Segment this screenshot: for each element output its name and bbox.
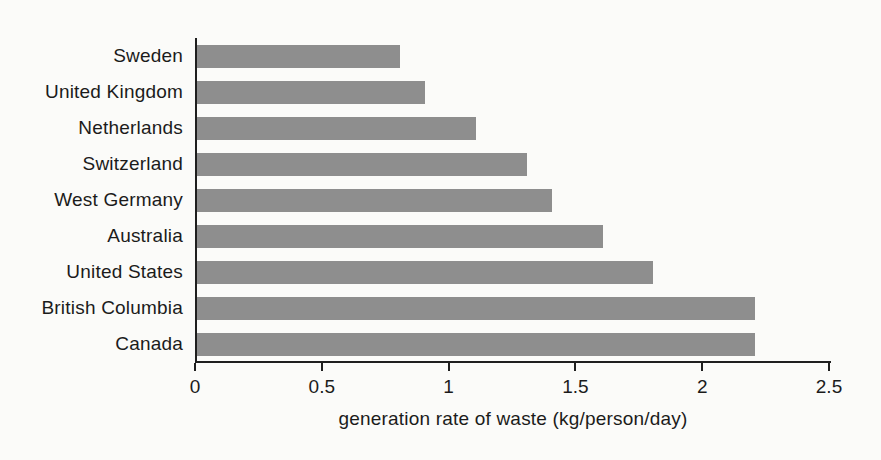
chart-rows: SwedenUnited KingdomNetherlandsSwitzerla…: [0, 38, 860, 362]
bar: [197, 225, 603, 248]
bar-track: [195, 225, 860, 248]
category-label: Switzerland: [0, 153, 195, 175]
x-axis-tick: [828, 363, 830, 371]
x-axis-tick-label: 1.5: [545, 376, 605, 398]
x-axis-tick-label: 2: [672, 376, 732, 398]
bar-track: [195, 189, 860, 212]
bar-track: [195, 333, 860, 356]
category-label: British Columbia: [0, 297, 195, 319]
bar-row: Canada: [0, 326, 860, 362]
category-label: Netherlands: [0, 117, 195, 139]
x-axis-tick: [448, 363, 450, 371]
bar: [197, 333, 755, 356]
bar: [197, 117, 476, 140]
bar-row: Sweden: [0, 38, 860, 74]
x-axis-tick: [194, 363, 196, 371]
x-axis-tick: [701, 363, 703, 371]
bar: [197, 297, 755, 320]
x-axis-line: [195, 361, 831, 363]
category-label: Australia: [0, 225, 195, 247]
bar-row: United States: [0, 254, 860, 290]
bar: [197, 81, 425, 104]
x-axis-tick-label: 0.5: [292, 376, 352, 398]
bar-track: [195, 297, 860, 320]
y-axis-line: [195, 38, 197, 363]
bar: [197, 261, 653, 284]
bar-row: West Germany: [0, 182, 860, 218]
x-axis-tick-label: 2.5: [799, 376, 859, 398]
category-label: Sweden: [0, 45, 195, 67]
x-axis-tick: [321, 363, 323, 371]
category-label: Canada: [0, 333, 195, 355]
category-label: United Kingdom: [0, 81, 195, 103]
bar-row: British Columbia: [0, 290, 860, 326]
bar: [197, 45, 400, 68]
bar: [197, 189, 552, 212]
x-axis-tick: [574, 363, 576, 371]
bar-track: [195, 117, 860, 140]
bar-track: [195, 81, 860, 104]
bar-row: Netherlands: [0, 110, 860, 146]
bar: [197, 153, 527, 176]
bar-row: Australia: [0, 218, 860, 254]
category-label: United States: [0, 261, 195, 283]
x-axis-title: generation rate of waste (kg/person/day): [195, 408, 831, 430]
bar-track: [195, 261, 860, 284]
bar-row: Switzerland: [0, 146, 860, 182]
bar-track: [195, 45, 860, 68]
bar-row: United Kingdom: [0, 74, 860, 110]
bar-track: [195, 153, 860, 176]
x-axis-tick-label: 0: [165, 376, 225, 398]
category-label: West Germany: [0, 189, 195, 211]
x-axis-tick-label: 1: [419, 376, 479, 398]
waste-generation-bar-chart: SwedenUnited KingdomNetherlandsSwitzerla…: [0, 0, 881, 460]
